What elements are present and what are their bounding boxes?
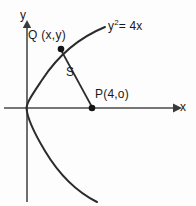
parabola-equation-label: y2= 4x xyxy=(108,19,142,32)
point-p-label: P(4,o) xyxy=(95,88,129,100)
segment-s-label: S xyxy=(66,66,74,78)
point-q-label: Q (x,y) xyxy=(28,29,66,41)
parabola-diagram: y x Q (x,y) P(4,o) S y2= 4x xyxy=(0,0,196,206)
x-axis-label: x xyxy=(180,101,186,113)
y-axis-label: y xyxy=(20,9,26,21)
parabola-curve xyxy=(27,27,106,202)
point-q-marker xyxy=(58,46,65,53)
equation-rest: = 4x xyxy=(119,19,143,33)
point-p-marker xyxy=(89,105,96,112)
